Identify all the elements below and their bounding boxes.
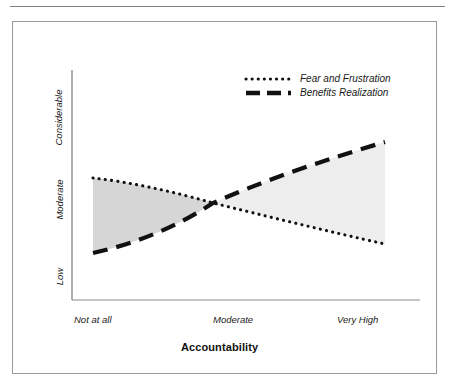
x-tick-label-not-at-all: Not at all (74, 314, 112, 325)
x-tick-label-moderate: Moderate (213, 314, 253, 325)
figure-container: Considerable Moderate Low Not at all Mod… (0, 0, 454, 390)
y-tick-label-considerable: Considerable (53, 78, 64, 158)
x-axis-title: Accountability (181, 341, 258, 353)
legend-label-benefits-realization: Benefits Realization (300, 87, 388, 98)
y-tick-label-low: Low (54, 254, 65, 300)
y-tick-label-moderate: Moderate (54, 165, 65, 235)
x-tick-label-very-high: Very High (337, 314, 378, 325)
legend-label-fear-and-frustration: Fear and Frustration (300, 73, 391, 84)
chart-plot-area (0, 0, 454, 390)
